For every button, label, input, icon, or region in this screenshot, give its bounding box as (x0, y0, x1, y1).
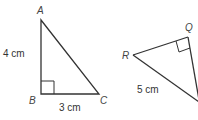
side-qp (188, 37, 198, 100)
triangle-abc: A B C 4 cm 3 cm (3, 5, 108, 113)
right-angle-marker-b (41, 81, 54, 94)
triangle-abc-outline (41, 20, 99, 94)
triangle-pqr: Q R 5 cm (122, 22, 198, 102)
vertex-label-b: B (29, 95, 36, 106)
vertex-label-q: Q (185, 22, 193, 33)
side-label-bc: 3 cm (59, 102, 81, 113)
vertex-label-a: A (36, 5, 44, 16)
vertex-label-r: R (122, 50, 129, 61)
side-label-ab: 4 cm (3, 48, 25, 59)
side-label-rp: 5 cm (137, 84, 159, 95)
right-angle-marker-q (176, 41, 190, 52)
diagram-canvas: A B C 4 cm 3 cm Q R 5 cm (0, 0, 198, 120)
side-rq (133, 37, 188, 55)
vertex-label-c: C (100, 95, 108, 106)
